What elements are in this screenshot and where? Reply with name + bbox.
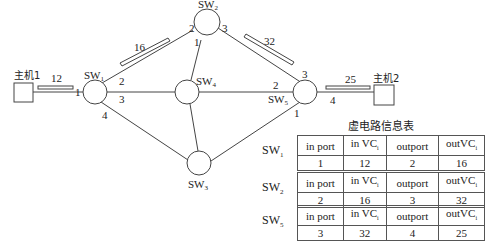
sw1-node[interactable] [83,80,107,104]
vc-bar-sw5-host2 [326,86,370,89]
port-sw2-3: 3 [222,22,228,34]
table-header-row: in port in VCi outport outVCi [298,136,485,156]
sw5-label: SW5 [268,93,289,107]
header-in-vc: in VCi [343,206,386,226]
sw3-label: SW3 [188,178,209,192]
port-sw5-4: 4 [330,94,336,106]
header-out-vc: outVCi [439,173,485,193]
header-in-port: in port [298,173,344,193]
port-sw1-2: 2 [119,75,125,87]
cell-outport: 2 [386,156,438,171]
host1-label: 主机1 [14,69,40,81]
link-sw1-sw3 [101,102,188,160]
vc-bar-host1-sw1 [38,86,73,89]
sw3-node[interactable] [187,151,211,175]
header-out-vc: outVCi [439,206,485,226]
header-in-vc: in VCi [343,136,386,156]
vc-table-sw1: in port in VCi outport outVCi 1 12 2 16 [297,135,485,171]
table-sw5-label: SW5 [262,213,284,229]
header-outport: outport [386,136,438,156]
header-in-port: in port [298,206,344,226]
header-out-vc: outVCi [439,136,485,156]
port-sw2-2: 2 [189,22,195,34]
cell-in-port: 3 [298,226,344,241]
sw1-label: SW1 [84,69,105,83]
header-outport: outport [386,206,438,226]
header-outport: outport [386,173,438,193]
header-in-port: in port [298,136,344,156]
vc-label-sw1-sw2: 16 [134,41,146,53]
host2-label: 主机2 [373,72,399,84]
vc-bar-sw1-sw2 [120,38,170,66]
cell-in-port: 1 [298,156,344,171]
table-sw2-label: SW2 [262,180,284,196]
link-sw2-sw5 [218,28,302,83]
port-sw1-4: 4 [102,109,108,121]
table-header-row: in port in VCi outport outVCi [298,206,485,226]
table-sw1-label: SW1 [262,143,284,159]
table-header-row: in port in VCi outport outVCi [298,173,485,193]
vc-table-title: 虚电路信息表 [348,117,414,133]
host2-box[interactable] [374,85,394,105]
port-sw5-2: 2 [273,79,279,91]
link-sw4-sw3 [190,104,198,151]
cell-in-vc: 32 [343,226,386,241]
host1-box[interactable] [14,83,33,102]
vc-label-host1-sw1: 12 [51,72,62,84]
sw4-label: SW4 [196,75,217,89]
vc-label-sw2-sw5: 32 [264,35,275,47]
table-row: 1 12 2 16 [298,156,485,171]
link-sw3-sw5 [211,102,300,161]
port-sw1-3: 3 [119,93,125,105]
port-sw2-1: 1 [194,36,200,48]
vc-table-sw2: in port in VCi outport outVCi 2 16 3 32 [297,172,485,208]
port-sw5-1: 1 [294,107,300,119]
sw2-node[interactable] [194,9,220,35]
port-sw5-3: 3 [302,68,308,80]
cell-outport: 4 [386,226,438,241]
table-row: 3 32 4 25 [298,226,485,241]
vc-label-sw5-host2: 25 [345,73,357,85]
port-sw1-1: 1 [75,86,81,98]
cell-out-vc: 25 [439,226,485,241]
vc-table-sw5: in port in VCi outport outVCi 3 32 4 25 [297,205,485,241]
sw5-node[interactable] [293,80,317,104]
cell-in-vc: 12 [343,156,386,171]
header-in-vc: in VCi [343,173,386,193]
link-sw1-sw2 [102,30,193,83]
cell-out-vc: 16 [439,156,485,171]
